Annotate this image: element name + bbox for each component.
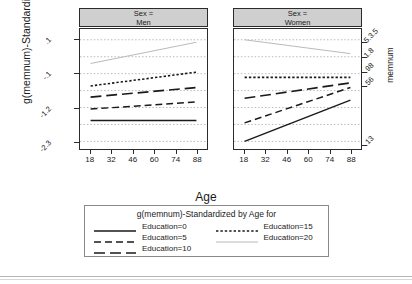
- x-tick-p1-5: 88: [340, 155, 362, 164]
- y-tickmark-left-2: [74, 108, 79, 109]
- footer-divider: [0, 276, 412, 277]
- chart-figure: g(memnum)-Standardized memnum Age .1-.1-…: [0, 0, 412, 284]
- legend-item-education-5: Education=5: [85, 233, 207, 243]
- y-tickmark-left-3: [74, 142, 79, 143]
- legend-item-label: Education=20: [264, 233, 313, 242]
- x-tickmark-p0-0: [90, 150, 91, 154]
- x-tick-p1-0: 18: [233, 155, 255, 164]
- legend-item-label: Education=10: [142, 244, 191, 253]
- legend-items: Education=0Education=15Education=5Educat…: [85, 221, 328, 254]
- x-tickmark-p1-2: [287, 150, 288, 154]
- legend-row: Education=5Education=20: [85, 232, 328, 243]
- x-tickmark-p0-2: [133, 150, 134, 154]
- legend-item-education-20: Education=20: [207, 233, 329, 243]
- y-tickmark-left-0: [74, 39, 79, 40]
- x-tick-p0-4: 74: [165, 155, 187, 164]
- y-tickmark-right-0: [362, 42, 367, 43]
- x-tick-p1-1: 32: [254, 155, 276, 164]
- y-tickmark-right-2: [362, 72, 367, 73]
- x-tick-p0-0: 18: [79, 155, 101, 164]
- legend-line-swatch: [93, 222, 137, 232]
- panel-plot-women: [233, 28, 362, 150]
- x-tick-p1-3: 60: [297, 155, 319, 164]
- x-tickmark-p0-1: [111, 150, 112, 154]
- legend-line-swatch: [215, 222, 259, 232]
- y-tickmark-right-1: [362, 57, 367, 58]
- panel-header-women-line1: Sex =: [234, 9, 361, 18]
- x-tick-p1-4: 74: [319, 155, 341, 164]
- x-tickmark-p1-3: [308, 150, 309, 154]
- panel-women-lines: [234, 29, 361, 149]
- panel-header-men: Sex = Men: [79, 8, 208, 27]
- legend-item-education-10: Education=10: [85, 244, 207, 254]
- y-tick-right-4: .13: [362, 113, 397, 148]
- legend-row: Education=0Education=15: [85, 221, 328, 232]
- legend: g(memnum)-Standardized by Age for Educat…: [84, 205, 329, 257]
- panel-plot-men: [79, 28, 208, 150]
- x-tick-p0-2: 46: [122, 155, 144, 164]
- x-tick-p0-5: 88: [186, 155, 208, 164]
- x-tickmark-p1-0: [244, 150, 245, 154]
- y-tickmark-right-3: [362, 86, 367, 87]
- legend-line-swatch: [93, 244, 137, 254]
- y-tickmark-right-4: [362, 145, 367, 146]
- legend-item-label: Education=5: [142, 233, 187, 242]
- panel-header-men-line2: Men: [80, 18, 207, 27]
- legend-item-education-15: Education=15: [207, 222, 329, 232]
- x-tickmark-p1-1: [265, 150, 266, 154]
- panel-header-women-line2: Women: [234, 18, 361, 27]
- x-tick-p0-1: 32: [100, 155, 122, 164]
- legend-line-swatch: [215, 233, 259, 243]
- x-tickmark-p0-3: [154, 150, 155, 154]
- panel-header-men-line1: Sex =: [80, 9, 207, 18]
- legend-title: g(memnum)-Standardized by Age for: [85, 209, 328, 219]
- y-tickmark-left-1: [74, 73, 79, 74]
- legend-item-education-0: Education=0: [85, 222, 207, 232]
- x-tick-p0-3: 60: [143, 155, 165, 164]
- legend-item-label: Education=0: [142, 222, 187, 231]
- legend-line-swatch: [93, 233, 137, 243]
- x-tickmark-p0-5: [197, 150, 198, 154]
- x-tick-p1-2: 46: [276, 155, 298, 164]
- x-axis-title: Age: [0, 190, 412, 204]
- legend-item-label: Education=15: [264, 222, 313, 231]
- panel-men-lines: [80, 29, 207, 149]
- panel-header-women: Sex = Women: [233, 8, 362, 27]
- legend-row: Education=10: [85, 243, 328, 254]
- x-tickmark-p1-5: [351, 150, 352, 154]
- footer-divider-secondary: [0, 279, 412, 280]
- x-tickmark-p1-4: [330, 150, 331, 154]
- x-tickmark-p0-4: [176, 150, 177, 154]
